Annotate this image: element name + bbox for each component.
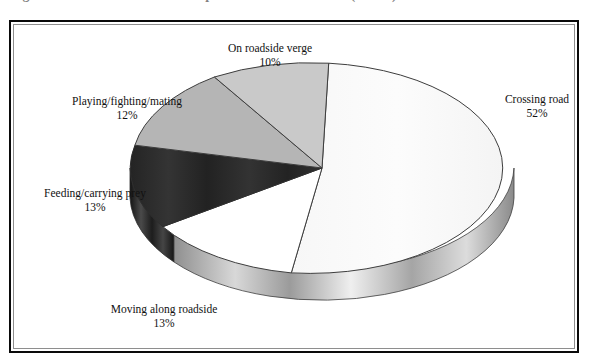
pie-label-on-roadside-verge-name: On roadside verge <box>228 42 312 54</box>
pie-label-feeding-carrying-prey: Feeding/carrying prey 13% <box>25 187 165 214</box>
pie-label-moving-along-roadside: Moving along roadside 13% <box>84 303 244 330</box>
pie-label-feeding-carrying-prey-name: Feeding/carrying prey <box>44 187 146 199</box>
pie-label-crossing-road: Crossing road 52% <box>487 93 587 120</box>
pie-label-crossing-road-name: Crossing road <box>505 93 569 105</box>
pie-chart: On roadside verge 10% Playing/fighting/m… <box>0 0 593 363</box>
pie-label-crossing-road-pct: 52% <box>487 107 587 121</box>
pie-label-moving-along-roadside-name: Moving along roadside <box>111 303 218 315</box>
pie-label-moving-along-roadside-pct: 13% <box>84 317 244 331</box>
pie-label-playing-fighting-mating-name: Playing/fighting/mating <box>72 95 182 107</box>
pie-label-on-roadside-verge: On roadside verge 10% <box>200 42 340 69</box>
pie-label-on-roadside-verge-pct: 10% <box>200 56 340 70</box>
pie-label-playing-fighting-mating-pct: 12% <box>42 109 212 123</box>
pie-label-feeding-carrying-prey-pct: 13% <box>25 201 165 215</box>
pie-label-playing-fighting-mating: Playing/fighting/mating 12% <box>42 95 212 122</box>
